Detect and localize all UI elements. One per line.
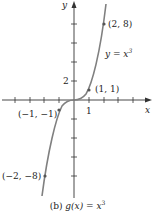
cubic-function-graph: y x 1 2 (2, 8) (1, 1) (−1, −1) (−2, −8) … xyxy=(0,0,155,215)
caption-prefix: (b) xyxy=(50,201,66,211)
x-tick-label: 1 xyxy=(86,106,92,116)
x-axis-label: x xyxy=(145,105,150,115)
point-neg1-neg1 xyxy=(57,108,60,111)
curve-label: y = x3 xyxy=(104,47,132,59)
point-neg2-neg8 xyxy=(43,174,46,177)
point-label-1-1: (1, 1) xyxy=(95,84,119,94)
caption-function: g(x) = x xyxy=(65,201,101,211)
x-axis-arrow-icon xyxy=(145,98,152,103)
y-axis-arrow-icon xyxy=(72,1,77,8)
figure-caption: (b) g(x) = x3 xyxy=(0,199,155,211)
y-tick-label: 2 xyxy=(63,76,69,86)
y-axis-label: y xyxy=(61,0,68,10)
point-2-8 xyxy=(102,22,105,25)
point-label-neg2-neg8: (−2, −8) xyxy=(2,171,41,181)
point-label-neg1-neg1: (−1, −1) xyxy=(18,109,57,119)
point-1-1 xyxy=(87,88,90,91)
caption-exponent: 3 xyxy=(102,199,106,206)
point-label-2-8: (2, 8) xyxy=(108,19,132,29)
